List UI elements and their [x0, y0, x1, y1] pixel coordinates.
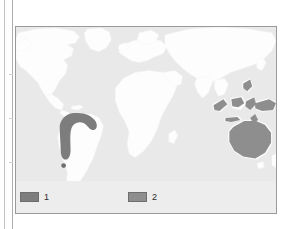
legend-label-1: 1 — [44, 192, 49, 202]
legend-label-2: 2 — [152, 192, 157, 202]
page-scan-tick — [9, 74, 13, 75]
land-new-zealand — [272, 154, 276, 168]
page-scan-tick — [9, 162, 13, 163]
range-point-isolated — [61, 163, 66, 168]
legend-swatch-2 — [128, 192, 147, 202]
page-scan-tick — [9, 118, 13, 119]
page-scan-rule-outer — [4, 0, 5, 229]
legend-swatch-1 — [20, 192, 39, 202]
map-figure: 1 2 — [15, 26, 277, 214]
map-legend: 1 2 — [16, 181, 276, 213]
legend-item-2[interactable]: 2 — [128, 192, 157, 202]
page-scan-rule-inner — [12, 0, 13, 229]
legend-item-1[interactable]: 1 — [20, 192, 49, 202]
